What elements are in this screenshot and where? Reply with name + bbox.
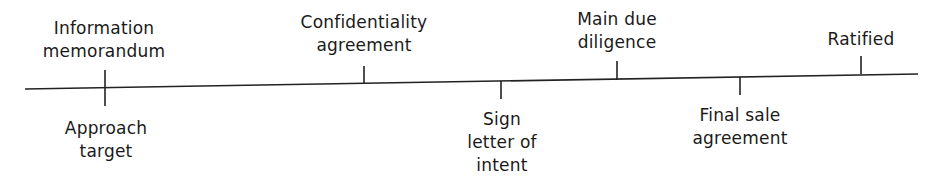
- label-approach-target: Approach target: [65, 117, 147, 163]
- label-final-sale-agreement: Final sale agreement: [692, 104, 787, 150]
- label-main-due-diligence: Main due diligence: [577, 8, 657, 54]
- timeline-axis: [25, 74, 918, 89]
- label-ratified: Ratified: [828, 28, 895, 51]
- label-sign-letter-of-intent: Sign letter of intent: [467, 108, 537, 177]
- label-information-memorandum: Information memorandum: [43, 17, 165, 63]
- label-confidentiality-agreement: Confidentiality agreement: [301, 11, 428, 57]
